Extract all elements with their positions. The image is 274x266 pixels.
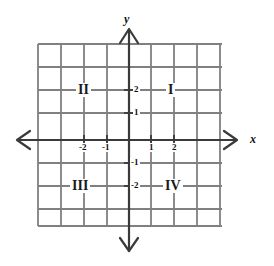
y-tick-label-2: 2 <box>133 85 140 94</box>
x-axis-label: x <box>250 133 256 145</box>
x-tick-label-1: 1 <box>148 143 155 152</box>
x-tick-label-neg2: -2 <box>78 143 88 152</box>
coordinate-plane-svg <box>0 0 274 266</box>
quadrant-label-iv: IV <box>163 179 183 193</box>
y-tick-label-neg2: -2 <box>130 181 140 190</box>
y-tick-label-1: 1 <box>133 108 140 117</box>
quadrant-label-i: I <box>166 83 175 97</box>
x-axis <box>17 131 237 149</box>
x-tick-label-2: 2 <box>171 143 178 152</box>
coordinate-plane-figure: x y I II III IV -2 -1 1 2 2 1 -1 -2 <box>0 0 274 266</box>
quadrant-label-ii: II <box>76 83 91 97</box>
y-tick-label-neg1: -1 <box>130 158 140 167</box>
x-tick-label-neg1: -1 <box>101 143 111 152</box>
quadrant-label-iii: III <box>70 179 90 193</box>
y-axis-label: y <box>124 13 129 25</box>
